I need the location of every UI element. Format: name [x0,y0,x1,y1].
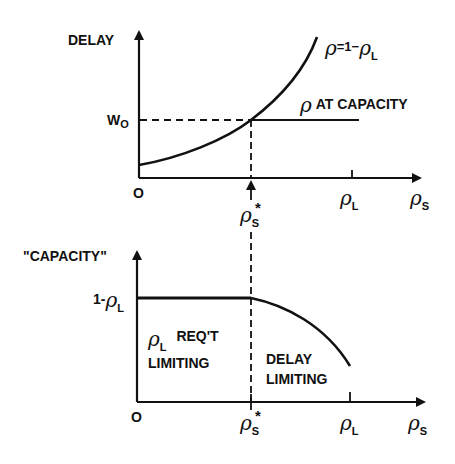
level-prefix: 1- [93,291,105,307]
capacity-text: AT CAPACITY [316,96,408,112]
star-symbol: * [255,199,261,216]
top-capacity-label: ρ AT CAPACITY [300,95,408,115]
sub-L: L [371,50,378,62]
top-rhoS-label: ρS [410,188,429,208]
top-rhoL-label: ρL [340,188,359,208]
star-symbol: * [255,407,261,424]
top-ylabel: DELAY [68,33,114,47]
eq-text: =1− [337,39,359,54]
sub-S: S [252,425,259,437]
rho-symbol: ρ [359,36,371,60]
rho-symbol: ρ [340,186,352,210]
top-delay-curve [139,37,317,165]
sub-L: L [117,302,124,314]
w0-sub: O [120,118,129,130]
bottom-rhoL-label: ρL [340,413,359,433]
diagram-canvas [0,0,455,464]
rho-symbol: ρ [340,411,352,435]
rho-symbol: ρ [325,36,337,60]
rho-symbol: ρ [105,288,117,312]
bottom-rhoS-label: ρS [408,413,427,433]
bottom-origin-label: O [131,410,142,424]
top-curve-label: ρ=1−ρL [325,38,378,58]
region-delay-limiting-line2: LIMITING [266,372,327,386]
rho-symbol: ρ [408,411,420,435]
rho-symbol: ρ [240,203,252,227]
sub-S: S [422,200,429,212]
rho-symbol: ρ [410,186,422,210]
rho-symbol: ρ [300,93,312,117]
region1-line2: LIMITING [148,356,209,370]
region-rhoL-limiting: ρL REQ'T [148,329,219,349]
sub-L: L [352,425,359,437]
bottom-level-label: 1-ρL [93,290,124,310]
region-delay-limiting-line1: DELAY [266,352,312,366]
region1-line1: REQ'T [176,328,218,344]
rho-symbol: ρ [240,411,252,435]
top-w0-label: WO [107,113,129,127]
sub-L: L [160,341,167,353]
bottom-ylabel: "CAPACITY" [23,249,107,263]
sub-L: L [352,200,359,212]
sub-S: S [420,425,427,437]
top-origin-label: O [133,186,144,200]
w0-text: W [107,112,120,128]
top-rhoS-star-label: ρS* [240,205,265,225]
bottom-rhoS-star-label: ρS* [240,413,265,433]
rho-symbol: ρ [148,327,160,351]
sub-S: S [252,217,259,229]
